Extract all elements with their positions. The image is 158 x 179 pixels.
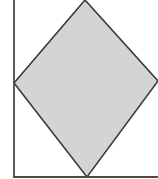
diagram-canvas — [0, 0, 158, 179]
shaded-rhombus — [14, 0, 158, 177]
rhombus-in-rectangle-figure — [0, 0, 158, 179]
